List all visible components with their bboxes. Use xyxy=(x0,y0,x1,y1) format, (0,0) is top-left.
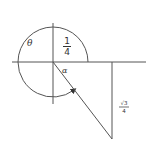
sqrt3-denominator: 4 xyxy=(122,108,126,114)
alpha-label: α xyxy=(62,66,68,75)
quarter-denominator: 4 xyxy=(64,47,70,57)
theta-label: θ xyxy=(27,38,33,48)
sqrt3-numerator: √3 xyxy=(120,100,128,106)
angle-diagram: θ α 1 4 √3 4 xyxy=(0,0,158,145)
quarter-numerator: 1 xyxy=(64,36,70,46)
